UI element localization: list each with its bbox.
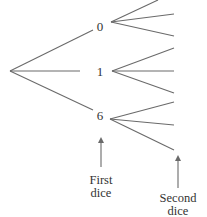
caption-second-dice-line1: Second	[160, 191, 198, 205]
branches-from-6	[110, 102, 174, 150]
node-label-0: 0	[97, 19, 104, 34]
root-branches	[10, 30, 93, 110]
node-label-1: 1	[97, 64, 104, 79]
branch-0-c	[111, 22, 174, 36]
arrowhead-icon	[98, 137, 104, 143]
node-label-6: 6	[97, 108, 104, 123]
caption-first-dice-line2: dice	[91, 186, 112, 200]
second-dice-arrow	[175, 155, 181, 188]
branch-root-to-6	[10, 71, 93, 110]
branches-from-0	[111, 0, 174, 36]
first-dice-arrow	[98, 137, 104, 167]
branch-root-to-0	[10, 30, 93, 71]
branch-6-a	[110, 102, 174, 119]
caption-second-dice-line2: dice	[168, 204, 189, 217]
caption-first-dice-line1: First	[90, 173, 113, 187]
branch-1-a	[112, 48, 174, 71]
tree-diagram: 0 1 6 First dice Second dice	[0, 0, 207, 217]
branch-1-c	[112, 71, 174, 93]
arrowhead-icon	[175, 155, 181, 161]
branches-from-1	[112, 48, 174, 93]
